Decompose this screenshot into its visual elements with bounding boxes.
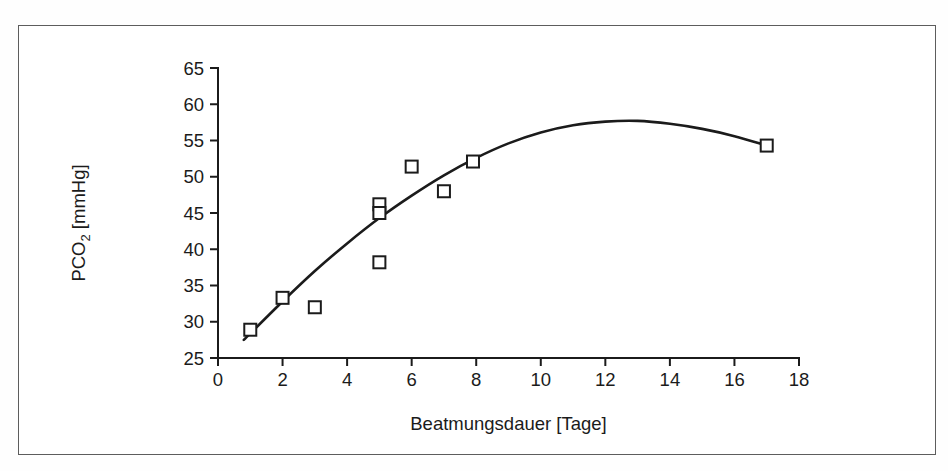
x-axis-title: Beatmungsdauer [Tage]	[410, 413, 606, 434]
x-tick-label: 6	[407, 369, 417, 390]
x-tick-label: 8	[471, 369, 481, 390]
y-tick-label: 60	[183, 94, 204, 115]
x-tick-label: 0	[213, 369, 223, 390]
x-tick-label: 14	[660, 369, 681, 390]
figure-page: 253035404550556065024681012141618PCO2 [m…	[0, 0, 948, 471]
data-point-marker	[244, 324, 256, 336]
data-point-marker	[761, 140, 773, 152]
data-point-marker	[309, 301, 321, 313]
y-tick-label: 65	[183, 58, 204, 79]
y-tick-label: 55	[183, 130, 204, 151]
data-point-marker	[438, 185, 450, 197]
data-point-marker	[406, 161, 418, 173]
y-tick-label: 35	[183, 275, 204, 296]
data-point-marker	[277, 292, 289, 304]
y-axis-title: PCO2 [mmHg]	[68, 164, 93, 281]
x-tick-label: 18	[789, 369, 810, 390]
x-tick-label: 10	[530, 369, 551, 390]
y-tick-label: 30	[183, 311, 204, 332]
figure-frame: 253035404550556065024681012141618PCO2 [m…	[18, 25, 936, 455]
data-point-marker	[373, 207, 385, 219]
data-point-marker	[373, 256, 385, 268]
x-tick-label: 4	[342, 369, 352, 390]
scatter-chart: 253035404550556065024681012141618PCO2 [m…	[19, 26, 937, 456]
data-point-marker	[467, 156, 479, 168]
y-tick-label: 40	[183, 239, 204, 260]
axis-lines	[218, 68, 799, 358]
x-tick-label: 2	[277, 369, 287, 390]
regression-curve	[244, 121, 767, 340]
y-tick-label: 25	[183, 348, 204, 369]
y-tick-label: 50	[183, 166, 204, 187]
x-tick-label: 16	[724, 369, 745, 390]
y-tick-label: 45	[183, 203, 204, 224]
x-tick-label: 12	[595, 369, 616, 390]
